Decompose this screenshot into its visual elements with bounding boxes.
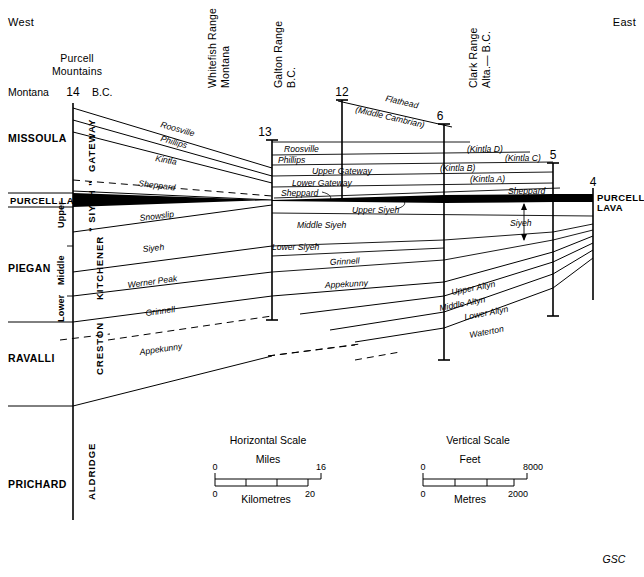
subdivision-label-middle: Middle [56, 255, 66, 285]
formation-label-roosville-centre: Roosville [284, 144, 319, 154]
horizontal-scale-secondary-min: 0 [212, 489, 217, 499]
group-label-ravalli: RAVALLI [8, 352, 55, 364]
section-number-12: 12 [335, 85, 349, 99]
subdivision-label-upper: Upper [56, 201, 66, 228]
section-number-14: 14 [66, 85, 80, 99]
formation-column-creston: CRESTON [94, 322, 105, 375]
formation-label-sheppard-centre: Sheppard [281, 188, 318, 198]
formation-label-siyeh-west: Siyeh [142, 242, 165, 254]
formation-label-snowslip: Snowslip [139, 209, 175, 223]
formation-label-kintla-d: (Kintla D) [467, 144, 503, 154]
vertical-scale-primary-max: 8000 [523, 462, 543, 472]
locality-whitefish-line2: Montana [219, 46, 231, 88]
locality-galton-line2: B.C. [285, 67, 297, 88]
vertical-scale-secondary-max: 2000 [508, 489, 528, 499]
formation-label-phillips-centre: Phillips [278, 155, 306, 165]
section-number-13: 13 [258, 125, 272, 139]
formation-label-grinnell-west: Grinnell [145, 304, 177, 318]
formation-label-upper-altyn: Upper Altyn [450, 279, 496, 297]
group-label-piegan: PIEGAN [8, 262, 51, 274]
vertical-scale-primary-min: 0 [420, 462, 425, 472]
horizontal-scale-secondary-max: 20 [305, 489, 315, 499]
contact-waterton-base-inferred-a [268, 344, 360, 356]
contact-appekunny-base-inferred-west [108, 316, 272, 340]
formation-label-upper-gateway: Upper Gateway [312, 166, 372, 176]
section-number-4: 4 [590, 175, 597, 189]
formation-label-kintla-b: (Kintla B) [440, 163, 475, 173]
section-number-6: 6 [437, 109, 444, 123]
locality-purcell-line2: Mountains [52, 65, 102, 77]
purcell-lava-right-line2: LAVA [597, 202, 623, 213]
horizontal-scale-title: Horizontal Scale [230, 434, 307, 446]
formation-label-sheppard-east: Sheppard [508, 186, 545, 196]
contact-appekunny-base-east [272, 236, 593, 296]
border-label-bc: B.C. [92, 86, 112, 98]
formation-label-appekunny-west: Appekunny [138, 341, 184, 357]
compass-east-label: East [613, 16, 636, 28]
formation-label-grinnell-centre: Grinnell [330, 255, 361, 267]
formation-label-kintla-c: (Kintla C) [505, 153, 541, 163]
credit-gsc: GSC [603, 553, 626, 565]
formation-label-lower-gateway: Lower Gateway [292, 178, 352, 188]
formation-label-waterton: Waterton [468, 323, 504, 339]
formation-label-werner-peak: Werner Peak [127, 273, 179, 290]
subdivision-label-lower: Lower [56, 294, 66, 322]
border-label-montana: Montana [8, 86, 49, 98]
formation-label-siyeh-east: Siyeh [510, 218, 532, 228]
compass-west-label: West [8, 16, 34, 28]
horizontal-scale-primary-max: 16 [316, 462, 326, 472]
vertical-scale-secondary-min: 0 [420, 489, 425, 499]
contact-waterton-base-inferred-b [355, 352, 400, 360]
vertical-scale-title: Vertical Scale [446, 434, 510, 446]
locality-clark-line2: Alta.— B.C. [480, 31, 492, 88]
formation-column-aldridge: ALDRIDGE [86, 443, 97, 500]
horizontal-scale-secondary-unit: Kilometres [241, 493, 291, 505]
cross-section-diagram: West East Purcell Mountains Whitefish Ra… [0, 0, 644, 577]
group-label-prichard: PRICHARD [8, 478, 67, 490]
unit-label-flathead: Flathead [385, 93, 420, 110]
formation-label-middle-siyeh: Middle Siyeh [297, 220, 346, 230]
section-number-5: 5 [550, 148, 557, 162]
locality-purcell-line1: Purcell [60, 52, 94, 64]
locality-whitefish-line1: Whitefish Range [206, 8, 218, 88]
figure-canvas: West East Purcell Mountains Whitefish Ra… [0, 0, 644, 577]
formation-label-upper-siyeh: Upper Siyeh [352, 205, 400, 215]
formation-label-kintla-a: (Kintla A) [470, 174, 505, 184]
siyeh-thickness-arrow-down [521, 234, 527, 241]
locality-galton-line1: Galton Range [272, 21, 284, 88]
vertical-scale-primary-unit: Feet [459, 453, 480, 465]
group-label-missoula: MISSOULA [8, 132, 67, 144]
horizontal-scale-primary-min: 0 [212, 462, 217, 472]
locality-clark-line1: Clark Range [467, 27, 479, 88]
horizontal-scale-primary-unit: Miles [256, 453, 281, 465]
formation-label-sheppard-west: Sheppard [138, 178, 176, 192]
vertical-scale-secondary-unit: Metres [454, 493, 486, 505]
formation-label-kintla-west: Kintla [155, 153, 178, 167]
siyeh-thickness-arrow-up [521, 203, 527, 210]
formation-label-lower-siyeh: Lower Siyeh [272, 242, 320, 252]
contact-upper-siyeh-base [272, 213, 593, 216]
